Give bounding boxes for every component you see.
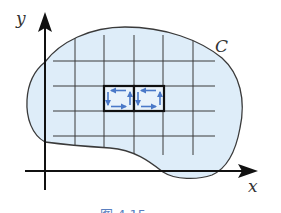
figure-caption: 图 4.15 — [100, 207, 146, 213]
curve-label: C — [215, 36, 228, 56]
y-axis-label: y — [15, 8, 26, 28]
highlighted-cell-left — [104, 86, 134, 111]
x-axis-label: x — [248, 176, 258, 196]
green-theorem-diagram: y x C 图 4.15 — [0, 0, 281, 213]
highlighted-cell-right — [134, 86, 164, 111]
